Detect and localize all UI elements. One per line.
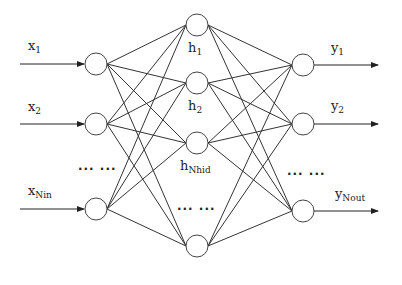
output-label-y2: y2: [331, 98, 344, 115]
hidden-label-h2: h2: [188, 98, 202, 115]
input-label-x2: x2: [28, 99, 41, 116]
hidden-label-h1: h1: [188, 40, 202, 57]
input-ellipsis: ··· ···: [78, 162, 117, 176]
output-node-2: [292, 113, 314, 135]
input-label-xnin: xNin: [28, 183, 52, 200]
output-label-ynout: yNout: [335, 186, 365, 203]
hidden-ellipsis: ··· ···: [177, 202, 216, 216]
output-label-y1: y1: [331, 40, 344, 57]
input-node-3: [85, 198, 107, 220]
hidden-node-4: [186, 235, 208, 257]
input-node-2: [85, 113, 107, 135]
hidden-node-1: [186, 14, 208, 36]
hidden-node-3: [186, 132, 208, 154]
output-node-1: [292, 54, 314, 76]
input-label-x1: x1: [28, 38, 41, 55]
output-node-3: [292, 200, 314, 222]
hidden-label-hnhid: hNhid: [180, 158, 211, 175]
hidden-node-2: [186, 72, 208, 94]
input-node-1: [85, 53, 107, 75]
output-ellipsis: ··· ···: [287, 167, 326, 181]
